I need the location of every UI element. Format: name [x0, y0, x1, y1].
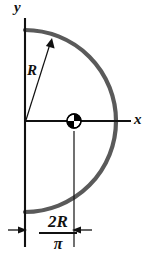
radius-leader-line	[26, 44, 50, 120]
dimension-denominator: π	[31, 235, 85, 252]
dimension-numerator: 2R	[31, 213, 85, 231]
fraction-bar	[39, 232, 77, 234]
x-axis-label: x	[134, 112, 142, 127]
semicircle-centroid-figure: y x R 2R π	[0, 0, 153, 256]
radius-arrowhead-icon	[46, 38, 55, 49]
centroid-marker-icon	[67, 114, 81, 128]
y-axis-label: y	[14, 0, 21, 15]
centroid-distance-dimension: 2R π	[31, 213, 85, 252]
radius-label: R	[27, 63, 37, 78]
